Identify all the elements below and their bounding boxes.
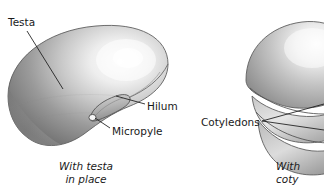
caption-right-seed: With coty [276,160,324,186]
micropyle-pore [89,114,96,120]
caption-left-line1: With testa [45,160,127,173]
bean-seed-cotyledons-exposed [246,21,324,174]
label-cotyledons: Cotyledons [201,116,260,128]
caption-right-line1: With [276,160,324,173]
caption-right-line2: coty [276,173,324,186]
caption-left-line2: in place [45,173,127,186]
label-testa: Testa [8,16,35,28]
label-hilum: Hilum [147,100,178,112]
caption-left-seed: With testa in place [45,160,127,186]
testa-highlight-core [113,48,143,68]
bean-seed-with-testa [0,25,168,160]
label-micropyle: Micropyle [112,125,163,137]
